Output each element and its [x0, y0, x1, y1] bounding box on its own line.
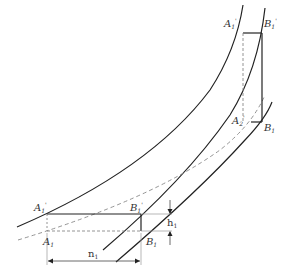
label-a1-prime-bottom: A1': [33, 201, 47, 214]
label-b1-bottom: B1: [145, 236, 157, 248]
label-a1-bottom: A1: [42, 236, 54, 248]
label-b1-top: B1: [263, 122, 275, 134]
diagram-canvas: A1' B1' A2' B1 A1' B1' A1 B1 h1 n1: [0, 0, 290, 280]
n1-arrow-left: [48, 259, 53, 264]
label-a2: A2': [231, 114, 245, 127]
label-h1: h1: [167, 217, 177, 229]
label-b1-prime-top: B1': [263, 17, 277, 30]
n1-arrow-right: [135, 259, 140, 264]
inner-curve: [116, 102, 272, 262]
label-a1-prime-top: A1': [223, 17, 237, 30]
label-n1: n1: [88, 248, 98, 260]
label-b1-prime-bottom: B1': [129, 201, 143, 214]
outer-curve: [17, 5, 243, 227]
h1-arrow-bottom-head: [168, 231, 173, 236]
